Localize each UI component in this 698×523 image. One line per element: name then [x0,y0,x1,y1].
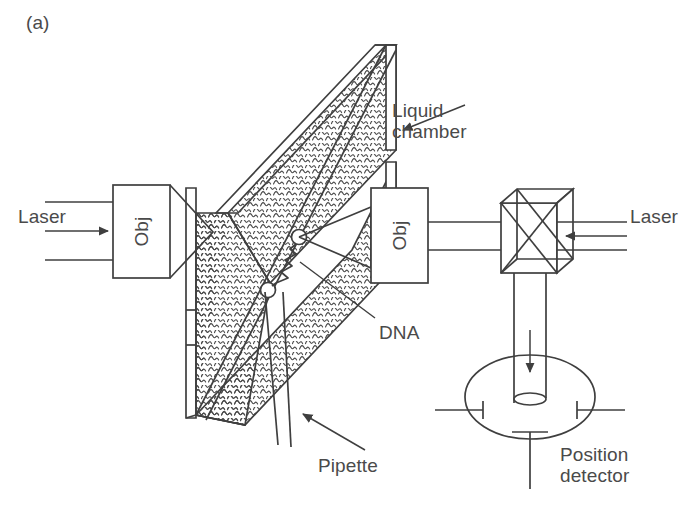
label-position-detector-line1: Position [560,444,628,465]
label-objective-left: Obj [113,185,170,278]
label-objective-left-text: Obj [131,217,152,247]
label-liquid-chamber: Liquidchamber [392,100,467,143]
beam-objective-to-cube [428,222,501,250]
position-detector-lead-bottom [512,432,548,489]
label-pipette: Pipette [318,455,378,476]
position-detector-lead-right [577,401,625,419]
liquid-chamber-front-wall [186,188,196,418]
position-detector-lead-left [435,401,483,419]
beam-splitter-cube [501,189,573,273]
leader-pipette [303,414,365,450]
label-position-detector-line2: detector [560,465,629,486]
label-liquid-chamber-line1: Liquid [392,100,443,121]
panel-label: (a) [26,12,50,33]
label-objective-right-text: Obj [389,221,410,251]
label-laser-right: Laser [630,206,678,227]
label-dna: DNA [379,322,419,343]
label-objective-right: Obj [371,188,428,283]
figure-panel-a: (a) Laser Laser Liquidchamber DNA Pipett… [0,0,698,523]
label-liquid-chamber-line2: chamber [392,121,467,142]
label-position-detector: Positiondetector [560,444,629,487]
detector-beam-column [514,273,546,405]
label-laser-left: Laser [18,206,66,227]
